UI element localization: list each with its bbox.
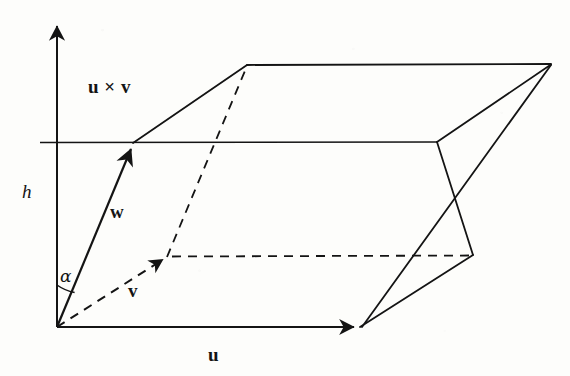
vector-v-arrow xyxy=(57,260,163,328)
top-face-back-edge xyxy=(247,64,551,65)
base-hidden-far-edge xyxy=(172,256,473,257)
angle-alpha-label: α xyxy=(60,268,71,285)
top-face-right-slant xyxy=(437,65,551,143)
vector-w-label: w xyxy=(110,202,124,221)
hidden-vertical-edge xyxy=(167,66,247,257)
base-right-edge xyxy=(360,255,473,327)
side-face-long-edge xyxy=(362,65,551,327)
vector-figure: u × v h w v u α xyxy=(0,0,570,376)
top-face-left-slant xyxy=(133,65,247,143)
side-face-short-edge xyxy=(437,142,473,255)
vector-u-label: u xyxy=(208,345,219,364)
figure-canvas xyxy=(0,0,570,376)
height-reference-line xyxy=(40,142,437,143)
cross-product-label: u × v xyxy=(88,77,131,96)
vector-w-arrow xyxy=(57,149,131,327)
vector-v-label: v xyxy=(128,281,138,300)
height-label: h xyxy=(22,182,32,201)
